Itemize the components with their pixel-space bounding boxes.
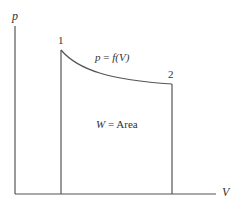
curve-label-rhs: f(V) <box>112 51 129 63</box>
pv-diagram-canvas <box>0 0 241 209</box>
state-2-label: 2 <box>168 69 174 80</box>
work-label-eq: = <box>105 118 116 130</box>
state-1-label: 1 <box>58 35 64 46</box>
curve-label-eq: = <box>101 51 113 63</box>
work-area-label: W = Area <box>96 119 138 130</box>
x-axis-label: V <box>222 186 229 198</box>
work-label-lhs: W <box>96 118 105 130</box>
y-axis-label: p <box>12 10 18 22</box>
curve-equation-label: p = f(V) <box>95 52 129 63</box>
work-label-rhs: Area <box>116 118 137 130</box>
